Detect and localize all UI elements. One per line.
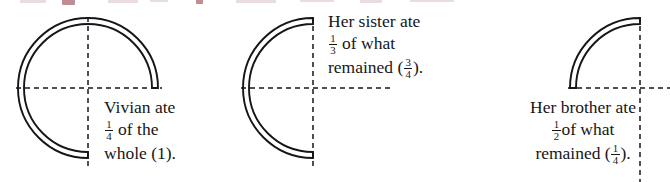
caption-sister-line-2-post: of what	[338, 33, 395, 53]
caption-brother-line-3-post: ).	[620, 143, 630, 163]
caption-sister: Her sister ate 13 of what remained (34).	[328, 10, 423, 79]
fraction-one-half: 12	[552, 119, 560, 142]
caption-vivian-line-1: Vivian ate	[104, 96, 176, 118]
fraction-denominator: 3	[329, 45, 337, 56]
fraction-denominator: 4	[404, 69, 412, 80]
fraction-denominator: 2	[552, 131, 560, 142]
fraction-denominator: 4	[105, 131, 113, 142]
caption-sister-line-3-post: ).	[413, 57, 423, 77]
fraction-three-quarters: 34	[404, 57, 412, 80]
caption-sister-line-3-pre: remained (	[328, 57, 403, 77]
caption-brother-line-3: remained (14).	[499, 142, 667, 166]
caption-vivian-line-2: 14 of the	[104, 118, 176, 142]
fraction-numerator: 1	[611, 143, 619, 155]
caption-brother-line-1: Her brother ate	[499, 96, 667, 118]
caption-brother-line-2-post: of what	[561, 119, 614, 139]
fraction-diagram-figure: Vivian ate 14 of the whole (1). Her sist…	[0, 0, 670, 182]
caption-vivian-line-3: whole (1).	[104, 142, 176, 164]
fraction-one-third: 13	[329, 33, 337, 56]
caption-vivian: Vivian ate 14 of the whole (1).	[104, 96, 176, 164]
caption-sister-line-1: Her sister ate	[328, 10, 423, 32]
caption-brother: Her brother ate 12of what remained (14).	[499, 96, 667, 165]
ring-arc-one-quarter	[570, 18, 640, 88]
caption-brother-line-3-pre: remained (	[535, 143, 610, 163]
caption-sister-line-3: remained (34).	[328, 56, 423, 80]
fraction-denominator: 4	[611, 155, 619, 166]
caption-brother-line-2: 12of what	[499, 118, 667, 142]
caption-sister-line-2: 13 of what	[328, 32, 423, 56]
fraction-numerator: 3	[404, 57, 412, 69]
fraction-one-quarter-b: 14	[611, 143, 619, 166]
caption-vivian-line-2-post: of the	[114, 119, 159, 139]
fraction-one-quarter: 14	[105, 119, 113, 142]
